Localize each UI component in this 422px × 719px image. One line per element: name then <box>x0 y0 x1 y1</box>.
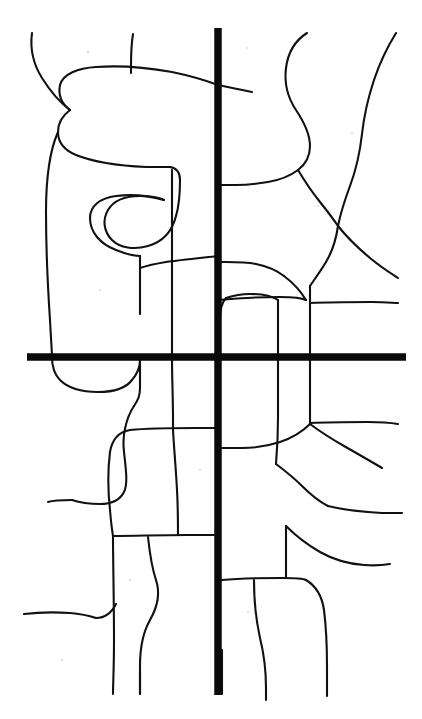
paper-speck-8 <box>129 579 131 581</box>
paper-speck-3 <box>99 289 101 291</box>
sketch-canvas <box>0 0 422 719</box>
minor-road-lower-mid-vertical <box>172 357 173 430</box>
paper-speck-2 <box>351 132 353 134</box>
street-network-sketch <box>0 0 422 719</box>
paper-speck-4 <box>317 205 319 207</box>
paper-speck-6 <box>61 659 63 661</box>
paper-speck-0 <box>87 51 89 53</box>
minor-road-mid-box-left-down <box>113 536 114 694</box>
paper-speck-1 <box>246 47 248 49</box>
minor-road-east-right-horizontal <box>310 302 398 303</box>
paper-speck-7 <box>247 611 249 613</box>
paper-speck-5 <box>199 469 201 471</box>
minor-road-mid-box-bottom <box>113 535 218 536</box>
